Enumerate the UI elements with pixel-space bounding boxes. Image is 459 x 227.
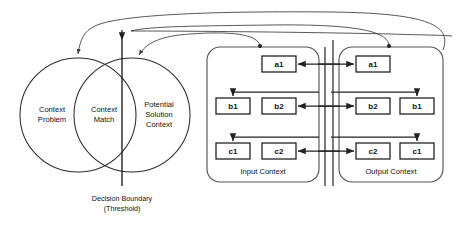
input-arrow-to-b1 — [233, 92, 319, 96]
output-box-b2: b2 — [356, 98, 390, 114]
diagram-svg: Context Problem Context Match Potential … — [0, 0, 459, 227]
input-box-c2-label: c2 — [275, 147, 284, 156]
output-context-panel: Output Context a1 b2 b1 c2 c1 — [331, 47, 443, 182]
input-box-c2: c2 — [262, 143, 296, 159]
output-box-a1: a1 — [356, 56, 390, 72]
junction-dot-input-panel-top — [258, 44, 262, 48]
decision-boundary-label-line1: Decision Boundary — [92, 194, 153, 203]
output-box-b1-label: b1 — [412, 102, 422, 111]
output-box-b2-label: b2 — [368, 102, 378, 111]
input-box-c1: c1 — [216, 143, 250, 159]
input-context-panel-label: Input Context — [240, 167, 286, 176]
input-box-b2-label: b2 — [274, 102, 284, 111]
output-box-c2: c2 — [356, 143, 390, 159]
feedback-curve-to-solution-context — [139, 33, 260, 55]
output-arrow-to-c1 — [331, 137, 417, 141]
output-arrow-to-b1 — [331, 92, 417, 96]
venn-right-label-line2: Solution — [145, 110, 172, 119]
input-context-panel: Input Context a1 b1 b2 c1 c2 — [207, 47, 319, 182]
input-arrow-to-c1 — [233, 137, 319, 141]
venn-right-label-line3: Context — [146, 120, 173, 129]
output-context-panel-label: Output Context — [365, 167, 417, 176]
output-box-c1-label: c1 — [413, 147, 422, 156]
input-box-b1-label: b1 — [228, 102, 238, 111]
venn-left-label-line1: Context — [39, 105, 66, 114]
cross-panel-connectors — [298, 64, 354, 151]
input-box-a1: a1 — [262, 56, 296, 72]
venn-right-label-line1: Potential — [144, 100, 174, 109]
output-box-a1-label: a1 — [369, 60, 378, 69]
output-box-b1: b1 — [400, 98, 434, 114]
output-box-c2-label: c2 — [369, 147, 378, 156]
venn-diagram: Context Problem Context Match Potential … — [20, 58, 190, 172]
input-box-b1: b1 — [216, 98, 250, 114]
venn-left-label-line2: Problem — [38, 115, 66, 124]
venn-overlap-label-line1: Context — [91, 105, 118, 114]
input-box-c1-label: c1 — [229, 147, 238, 156]
output-box-c1: c1 — [400, 143, 434, 159]
input-box-a1-label: a1 — [275, 60, 284, 69]
decision-boundary: Decision Boundary (Threshold) — [92, 40, 153, 213]
decision-boundary-label-line2: (Threshold) — [104, 204, 141, 213]
venn-overlap-label-line2: Match — [94, 115, 115, 124]
feedback-curve-mid-upper — [131, 25, 389, 46]
inter-panel-bus — [325, 40, 333, 186]
feedback-curves — [78, 12, 452, 55]
input-box-b2: b2 — [262, 98, 296, 114]
diagram-canvas: Context Problem Context Match Potential … — [0, 0, 459, 227]
junction-dot-output-panel-top — [387, 44, 391, 48]
